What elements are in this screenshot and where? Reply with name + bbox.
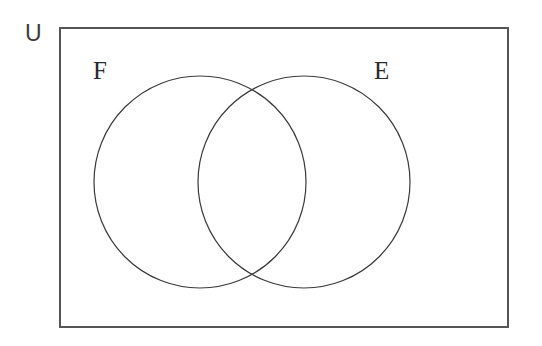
venn-diagram-figure: U F E	[0, 0, 542, 346]
universal-set-label: U	[25, 22, 42, 45]
venn-diagram-canvas	[0, 0, 542, 346]
set-label-f: F	[93, 58, 107, 83]
universal-set-rectangle	[60, 28, 508, 327]
set-label-e: E	[374, 58, 389, 83]
